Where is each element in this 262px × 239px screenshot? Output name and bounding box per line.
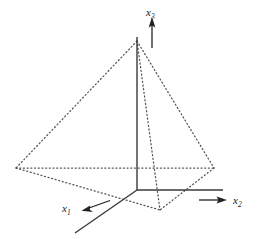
axis-line-x1 — [75, 190, 137, 233]
arrow-x2-icon — [199, 197, 227, 204]
edge-apex-left — [16, 41, 137, 168]
axis-label-x3: x3 — [145, 6, 155, 21]
tetrahedron-edges — [16, 41, 214, 210]
edge-right-front — [160, 168, 214, 210]
coordinate-axes — [75, 37, 223, 233]
arrow-x3-icon — [149, 17, 156, 48]
axis-label-x1-sub: 1 — [67, 208, 71, 217]
axis-label-x2: x2 — [232, 194, 242, 209]
edge-apex-right — [137, 41, 214, 168]
axis-label-x1: x1 — [61, 202, 71, 217]
edge-left-front — [16, 168, 160, 210]
axis-arrows — [82, 17, 228, 212]
arrow-x1-icon — [82, 201, 111, 213]
tetrahedron-diagram: x1 x2 x3 — [0, 0, 262, 239]
figure-container: x1 x2 x3 — [0, 0, 262, 239]
axis-label-x3-sub: 3 — [150, 12, 155, 21]
edge-apex-front — [137, 41, 160, 210]
axis-label-x2-sub: 2 — [238, 200, 242, 209]
